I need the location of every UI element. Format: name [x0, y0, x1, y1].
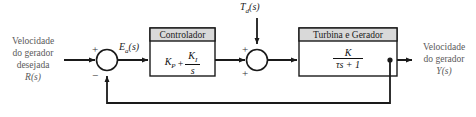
controller-operator: + — [176, 58, 186, 69]
output-label: Velocidade do gerador Y(s) — [414, 42, 474, 78]
controller-s-denominator: s — [185, 65, 200, 76]
controller-block-title: Controlador — [150, 30, 215, 40]
controller-transfer-function: KP+KIs — [150, 50, 215, 76]
summing-junction-1 — [97, 50, 118, 71]
diagram-lines-layer — [0, 0, 476, 117]
output-symbol: Y(s) — [414, 66, 474, 78]
controller-integral-fraction: KIs — [185, 50, 200, 76]
plant-transfer-function: Kτs + 1 — [299, 47, 397, 70]
reference-input-label: Velocidade do gerador desejada R(s) — [2, 36, 64, 84]
error-signal-label: Ea(s) — [119, 41, 139, 55]
block-diagram-figure: Velocidade do gerador desejada R(s) + − … — [0, 0, 476, 117]
sum1-minus-sign: − — [92, 70, 98, 81]
output-line2: do gerador — [414, 54, 474, 66]
reference-input-line2: do gerador — [2, 48, 64, 60]
error-signal-tail: (s) — [129, 41, 140, 52]
controller-kp-term: KP — [165, 56, 176, 67]
controller-ki-numerator: KI — [185, 50, 200, 65]
output-line1: Velocidade — [414, 42, 474, 54]
disturbance-tail: (s) — [249, 1, 260, 12]
reference-input-line1: Velocidade — [2, 36, 64, 48]
plant-numerator: K — [333, 47, 363, 59]
summing-junction-2 — [247, 50, 268, 71]
sum2-plus-sign-bottom: + — [242, 68, 248, 79]
reference-input-symbol: R(s) — [2, 72, 64, 84]
sum1-plus-sign: + — [92, 44, 98, 55]
disturbance-input-label: Td(s) — [240, 1, 260, 15]
sum2-plus-sign-top: + — [242, 44, 248, 55]
plant-block-title: Turbina e Gerador — [299, 30, 397, 40]
reference-input-line3: desejada — [2, 60, 64, 72]
plant-denominator: τs + 1 — [333, 59, 363, 70]
plant-fraction: Kτs + 1 — [333, 47, 363, 70]
